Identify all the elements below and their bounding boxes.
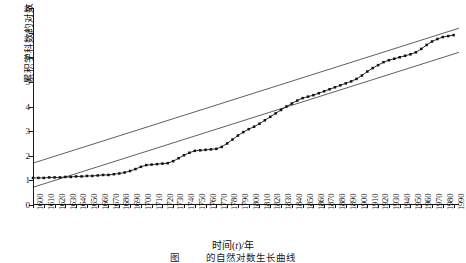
data-point-marker [113, 173, 116, 176]
data-point-marker [404, 55, 407, 58]
data-point-marker [70, 176, 73, 179]
data-point-marker [37, 177, 40, 180]
y-tick-label: 4 [26, 102, 31, 111]
data-point-marker [318, 92, 321, 95]
data-point-marker [296, 99, 299, 102]
data-point-marker [253, 125, 256, 128]
data-point-marker [247, 128, 250, 131]
upper-envelope-line [33, 28, 459, 163]
data-point-marker [425, 44, 428, 47]
data-point-marker [388, 59, 391, 62]
data-point-marker [32, 177, 35, 180]
data-point-marker [291, 102, 294, 105]
data-point-marker [48, 176, 51, 179]
data-point-marker [167, 162, 170, 165]
data-point-marker [102, 174, 105, 177]
data-point-marker [215, 148, 218, 151]
data-point-marker [129, 170, 132, 173]
x-axis-title-post: )/年 [238, 240, 254, 251]
data-point-marker [398, 56, 401, 59]
data-point-marker [75, 175, 78, 178]
data-point-marker [210, 148, 213, 151]
data-point-marker [123, 171, 126, 174]
figure-caption: 图的自然对数生长曲线 [0, 253, 466, 263]
data-point-marker [371, 67, 374, 70]
data-point-marker [447, 35, 450, 38]
data-point-marker [59, 176, 62, 179]
data-point-marker [161, 162, 164, 165]
data-point-marker [145, 164, 148, 167]
data-point-marker [415, 51, 418, 54]
data-point-marker [355, 78, 358, 81]
data-point-marker [231, 138, 234, 141]
data-point-marker [53, 176, 56, 179]
y-tick-label: 3 [26, 127, 31, 136]
data-point-marker [194, 150, 197, 153]
data-point-marker [312, 94, 315, 97]
data-point-marker [220, 146, 223, 149]
data-point-marker [156, 163, 159, 166]
data-point-marker [442, 36, 445, 39]
data-point-marker [382, 61, 385, 64]
data-point-marker [172, 160, 175, 163]
data-series-line [33, 35, 454, 178]
data-point-marker [328, 88, 331, 91]
data-point-marker [350, 80, 353, 83]
data-point-marker [242, 131, 245, 134]
data-point-marker [258, 122, 261, 125]
data-point-marker [177, 157, 180, 160]
data-point-marker [280, 109, 283, 112]
y-tick-label: 2 [26, 151, 31, 160]
data-point-marker [183, 154, 186, 157]
data-point-marker [366, 70, 369, 73]
y-tick-label: 1 [26, 176, 31, 185]
data-point-marker [64, 176, 67, 179]
data-point-marker [377, 64, 380, 67]
data-point-marker [307, 95, 310, 98]
y-tick-label: 7 [26, 28, 31, 37]
data-point-marker [323, 90, 326, 93]
data-point-marker [409, 53, 412, 56]
figure-caption-number: 图 [170, 253, 180, 263]
data-point-marker [431, 40, 434, 43]
data-point-marker [361, 74, 364, 77]
data-point-marker [204, 149, 207, 152]
data-point-marker [345, 82, 348, 85]
data-point-marker [118, 172, 121, 175]
data-point-marker [96, 174, 99, 177]
y-tick-label: 6 [26, 53, 31, 62]
data-point-marker [107, 174, 110, 177]
data-point-marker [43, 177, 46, 180]
data-point-marker [134, 168, 137, 171]
data-layer [33, 8, 459, 205]
data-point-marker [436, 38, 439, 41]
data-point-marker [301, 97, 304, 100]
data-point-marker [91, 175, 94, 178]
data-point-marker [393, 57, 396, 60]
data-point-marker [150, 163, 153, 166]
y-tick-label: 0 [26, 201, 31, 210]
data-point-marker [188, 152, 191, 155]
y-tick-label: 5 [26, 77, 31, 86]
data-series-markers [32, 34, 455, 179]
data-point-marker [285, 105, 288, 108]
data-point-marker [264, 119, 267, 122]
lower-envelope-line [33, 52, 459, 187]
data-point-marker [269, 116, 272, 119]
data-point-marker [274, 112, 277, 115]
data-point-marker [140, 166, 143, 169]
x-axis-title: 时间(t)/年 [0, 240, 466, 251]
data-point-marker [334, 86, 337, 89]
figure-caption-text: 的自然对数生长曲线 [206, 253, 296, 263]
data-point-marker [420, 48, 423, 51]
data-point-marker [237, 134, 240, 137]
data-point-marker [226, 142, 229, 145]
data-point-marker [452, 34, 455, 37]
data-point-marker [86, 175, 89, 178]
data-point-marker [80, 175, 83, 178]
data-point-marker [199, 149, 202, 152]
x-axis-title-pre: 时间( [212, 240, 235, 251]
plot-area: 012345678 160016101620163016401650166016… [33, 8, 459, 205]
y-tick-label: 8 [26, 4, 31, 13]
